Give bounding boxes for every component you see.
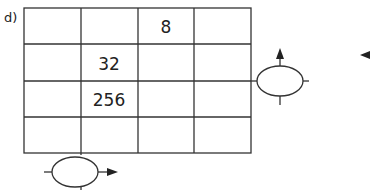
ellipse-operator-icon xyxy=(257,66,303,96)
arrow-left-icon xyxy=(360,51,370,59)
arrow-right-icon xyxy=(107,168,118,176)
number-grid xyxy=(24,8,251,153)
problem-label: d) xyxy=(4,10,17,25)
ellipse-operator-icon xyxy=(52,157,98,187)
right-operator xyxy=(251,48,309,105)
arrow-up-icon xyxy=(276,48,284,59)
bottom-operator xyxy=(44,153,118,190)
grid-cell-r1-c1: 32 xyxy=(98,54,120,74)
grid-cell-r2-c1: 256 xyxy=(93,90,125,110)
diagram-canvas: d) 8 32 256 xyxy=(0,0,370,190)
grid-cell-r0-c2: 8 xyxy=(161,17,172,37)
grid-cells: 8 32 256 xyxy=(93,17,172,110)
